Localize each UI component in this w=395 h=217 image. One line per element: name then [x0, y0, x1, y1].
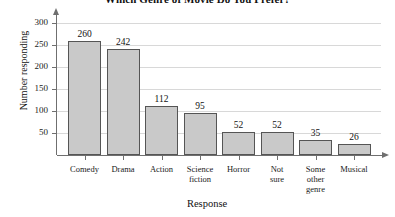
- x-tick-mark: [239, 156, 240, 160]
- bar-value-label: 95: [180, 101, 221, 111]
- x-tick-mark: [354, 156, 355, 160]
- x-tick-mark: [200, 156, 201, 160]
- bar-value-label: 26: [334, 132, 375, 142]
- bar: [299, 140, 332, 155]
- x-axis-line: [57, 155, 383, 156]
- bar-value-label: 52: [218, 120, 259, 130]
- page-title: Which Genre of Movie Do You Prefer?: [0, 0, 395, 5]
- bar: [68, 41, 101, 155]
- y-tick-label: 300: [20, 18, 48, 27]
- y-tick-label: 150: [20, 84, 48, 93]
- x-tick-mark: [123, 156, 124, 160]
- bar-value-label: 52: [257, 120, 298, 130]
- y-tick-mark: [52, 89, 57, 90]
- x-tick-mark: [316, 156, 317, 160]
- bar-value-label: 242: [103, 37, 144, 47]
- x-tick-mark: [85, 156, 86, 160]
- bar: [145, 106, 178, 155]
- y-tick-label: 250: [20, 40, 48, 49]
- bar: [107, 49, 140, 155]
- bar: [261, 132, 294, 155]
- x-tick-mark: [277, 156, 278, 160]
- y-tick-mark: [52, 45, 57, 46]
- x-category-label: Musical: [332, 164, 377, 174]
- x-tick-mark: [162, 156, 163, 160]
- bar-chart-figure: Which Genre of Movie Do You Prefer? Numb…: [0, 0, 395, 217]
- gridline: [57, 23, 381, 24]
- y-tick-mark: [52, 133, 57, 134]
- y-axis-arrow-icon: [53, 8, 59, 15]
- y-tick-mark: [52, 23, 57, 24]
- y-tick-mark: [52, 111, 57, 112]
- bar-value-label: 35: [295, 128, 336, 138]
- y-tick-label: 50: [20, 128, 48, 137]
- bar-value-label: 112: [141, 94, 182, 104]
- bar-value-label: 260: [64, 29, 105, 39]
- bar: [338, 144, 371, 155]
- bar: [222, 132, 255, 155]
- y-tick-mark: [52, 67, 57, 68]
- x-axis-arrow-icon: [382, 152, 389, 158]
- y-tick-label: 100: [20, 106, 48, 115]
- y-tick-label: 200: [20, 62, 48, 71]
- x-axis-label: Response: [57, 198, 357, 209]
- bar: [184, 113, 217, 155]
